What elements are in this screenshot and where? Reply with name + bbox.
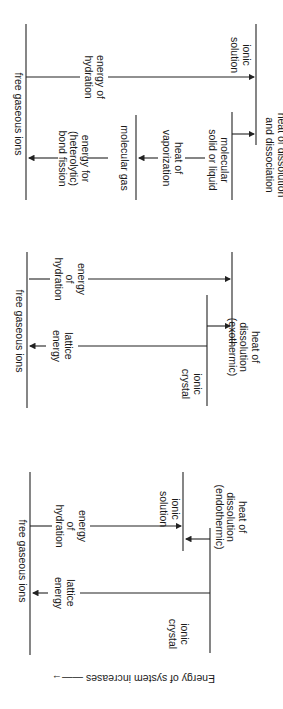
label-molecular-gas: molecular gas <box>118 118 130 198</box>
label-energy-of-hydration: energy of hydration <box>52 501 88 551</box>
label-ionic-crystal: ionic crystal <box>179 364 203 404</box>
label-energy-of-hydration: energy of hydration <box>51 254 87 304</box>
label-ionic-crystal: ionic crystal <box>166 614 190 654</box>
label-free-gaseous-ions: free gaseous ions <box>12 64 24 164</box>
label-energy-of-hydration: energy of hydration <box>82 47 106 107</box>
label-free-gaseous-ions: free gaseous ions <box>13 281 25 381</box>
label-ionic-solution: ionic solution <box>157 489 181 529</box>
label-bond-fission: energy for (heterolytic) bond fission <box>56 124 91 194</box>
label-heat-of-dissolution: heat of dissolution (exothermic) <box>225 312 261 382</box>
label-lattice-energy: lattice energy <box>50 326 74 366</box>
label-heat-of-dissolution: heat of dissolution and dissociation <box>263 100 283 210</box>
label-molecular-solid: molecular solid or liquid <box>206 118 230 202</box>
label-heat-of-vaporization: heat of vaporization <box>160 128 184 188</box>
label-ionic-solution: ionic solution <box>228 35 252 75</box>
label-heat-of-dissolution: heat of dissolution (endothermic) <box>212 482 248 552</box>
label-free-gaseous-ions: free gaseous ions <box>16 511 28 611</box>
label-lattice-energy: lattice energy <box>52 573 76 613</box>
axis-label-energy: Energy of system increases ——→ <box>55 671 215 685</box>
